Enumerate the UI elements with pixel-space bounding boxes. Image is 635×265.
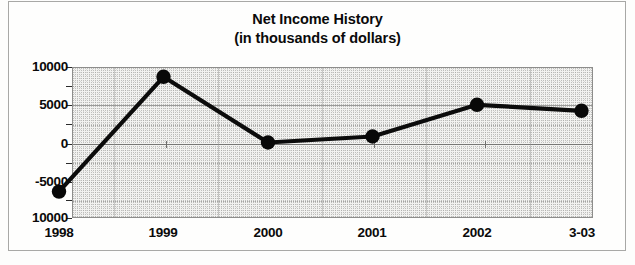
gridline-5000 xyxy=(73,105,592,106)
y-axis-label-minus5000: -5000 xyxy=(2,174,68,189)
y-axis-label-10000: 10000 xyxy=(2,59,68,74)
chart-page: Net Income History (in thousands of doll… xyxy=(0,0,635,265)
y-axis-label-minus10000: 10000 xyxy=(2,210,68,225)
x-axis-label-3-03: 3-03 xyxy=(569,225,595,240)
zero-tick-2 xyxy=(374,141,375,148)
x-axis-label-1999: 1999 xyxy=(148,225,177,240)
gridline-zero xyxy=(73,144,592,145)
gridline-minus2500 xyxy=(73,163,592,164)
x-axis-label-2001: 2001 xyxy=(357,225,386,240)
zero-tick-1 xyxy=(166,141,167,148)
gridline-7500 xyxy=(73,86,592,87)
x-axis-label-2000: 2000 xyxy=(253,225,282,240)
gridline-minus5000 xyxy=(73,182,592,183)
y-axis-label-5000: 5000 xyxy=(2,97,68,112)
vgrid-2 xyxy=(218,68,219,217)
plot-area xyxy=(72,67,593,218)
x-axis-label-2002: 2002 xyxy=(462,225,491,240)
x-axis-labels: 1998 1999 2000 2001 2002 3-03 xyxy=(0,225,635,249)
chart-title-line2: (in thousands of dollars) xyxy=(0,29,635,48)
vgrid-4 xyxy=(426,68,427,217)
chart-title: Net Income History (in thousands of doll… xyxy=(0,10,635,48)
vgrid-1 xyxy=(114,68,115,217)
gridline-minus7500 xyxy=(73,201,592,202)
x-axis-label-1998: 1998 xyxy=(44,225,73,240)
y-axis-label-0: 0 xyxy=(2,136,68,151)
gridline-2500 xyxy=(73,125,592,126)
chart-title-line1: Net Income History xyxy=(252,11,382,27)
zero-tick-3 xyxy=(485,141,486,148)
vgrid-3 xyxy=(322,68,323,217)
vgrid-5 xyxy=(530,68,531,217)
